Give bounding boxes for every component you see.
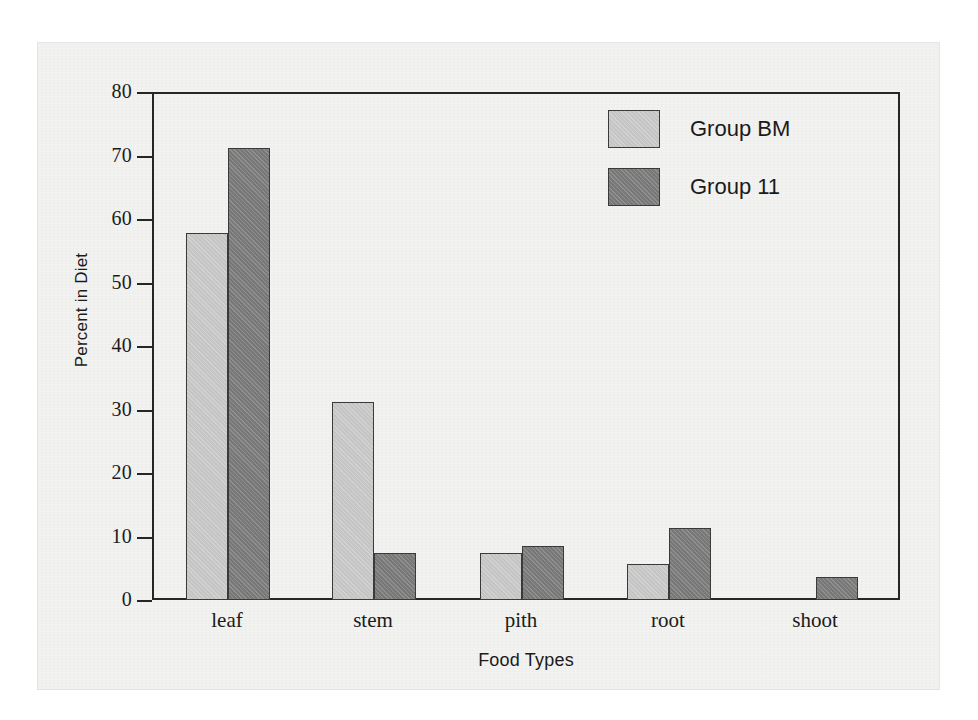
y-axis-title: Percent in Diet	[72, 210, 92, 410]
x-axis-tick-labels: leaf stem pith root shoot	[152, 608, 900, 642]
bar-root-group-11	[669, 528, 711, 600]
bar-chart-figure: 80 70 60 50 40 30 20 10 0 Percent in Die…	[0, 0, 978, 720]
legend-label-group-bm: Group BM	[690, 116, 790, 142]
bar-root-group-bm	[627, 564, 669, 600]
y-tick-mark-80	[137, 92, 152, 94]
chart-legend: Group BM Group 11	[608, 110, 888, 226]
y-tick-label-70: 70	[84, 144, 132, 167]
y-tick-mark-40	[137, 346, 152, 348]
legend-swatch-group-bm	[608, 110, 660, 148]
bar-shoot-group-11	[816, 577, 858, 600]
legend-label-group-11: Group 11	[690, 174, 780, 200]
y-tick-mark-10	[137, 537, 152, 539]
x-tick-label-pith: pith	[446, 608, 596, 633]
y-tick-mark-60	[137, 219, 152, 221]
x-tick-label-leaf: leaf	[152, 608, 302, 633]
y-tick-mark-20	[137, 473, 152, 475]
bar-leaf-group-bm	[186, 233, 228, 600]
legend-item-group-bm: Group BM	[608, 110, 888, 148]
legend-swatch-group-11	[608, 168, 660, 206]
bar-stem-group-11	[374, 553, 416, 600]
bar-pith-group-bm	[480, 553, 522, 600]
y-tick-label-80: 80	[84, 80, 132, 103]
legend-item-group-11: Group 11	[608, 168, 888, 206]
x-tick-label-root: root	[593, 608, 743, 633]
y-tick-mark-50	[137, 283, 152, 285]
scanned-figure-page: 80 70 60 50 40 30 20 10 0 Percent in Die…	[0, 0, 978, 720]
x-tick-label-stem: stem	[298, 608, 448, 633]
y-tick-label-10: 10	[84, 525, 132, 548]
y-tick-mark-0	[137, 600, 152, 602]
x-axis-title: Food Types	[152, 650, 900, 671]
y-tick-mark-70	[137, 156, 152, 158]
bar-pith-group-11	[522, 546, 564, 600]
y-tick-label-0: 0	[84, 588, 132, 611]
x-tick-label-shoot: shoot	[740, 608, 890, 633]
bar-stem-group-bm	[332, 402, 374, 600]
y-tick-mark-30	[137, 410, 152, 412]
y-tick-label-20: 20	[84, 461, 132, 484]
bar-leaf-group-11	[228, 148, 270, 600]
